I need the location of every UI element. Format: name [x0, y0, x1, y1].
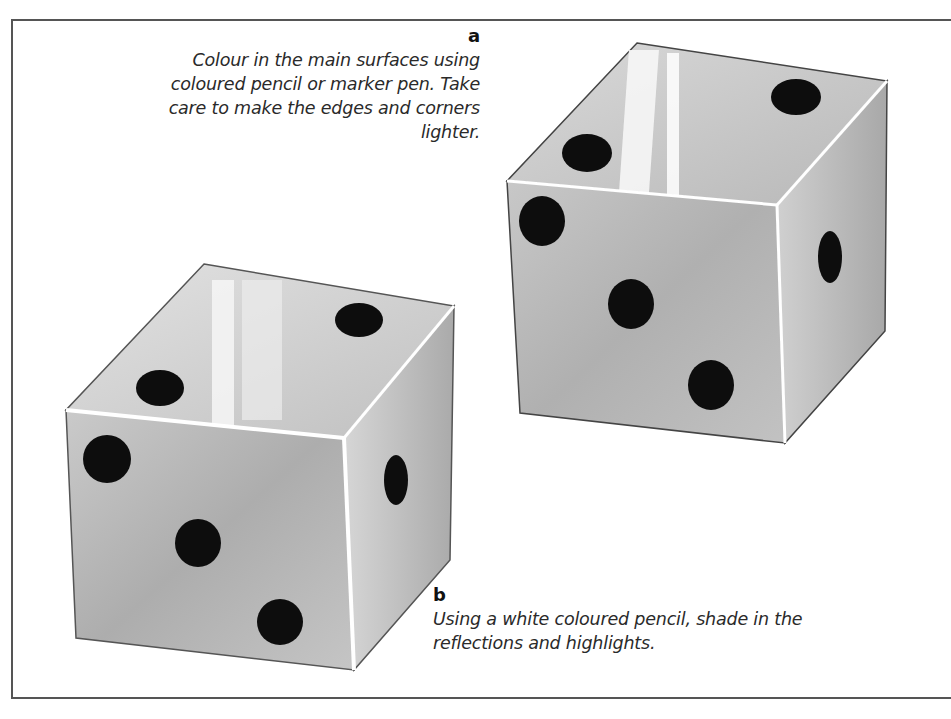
- step-b-label: b: [433, 583, 813, 607]
- pip: [688, 360, 734, 410]
- caption-step-b: b Using a white coloured pencil, shade i…: [433, 583, 813, 655]
- pip: [384, 455, 408, 505]
- caption-step-a: a Colour in the main surfaces using colo…: [140, 24, 480, 144]
- step-a-text: Colour in the main surfaces using colour…: [169, 50, 480, 142]
- pip: [335, 303, 383, 337]
- pip: [771, 79, 821, 115]
- step-b-text: Using a white coloured pencil, shade in …: [433, 609, 802, 653]
- pip: [83, 435, 131, 483]
- pip: [175, 519, 221, 567]
- pip: [608, 279, 654, 329]
- pip: [136, 370, 184, 406]
- pip: [818, 231, 842, 283]
- step-a-label: a: [140, 24, 480, 48]
- die-b-illustration: [62, 260, 462, 675]
- die-a-illustration: [495, 35, 895, 450]
- pip: [562, 134, 612, 172]
- pip: [257, 599, 303, 645]
- pip: [519, 196, 565, 246]
